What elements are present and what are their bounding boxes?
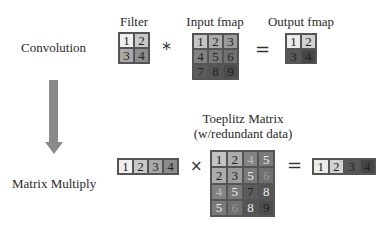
input-fmap-cell: 9 (223, 64, 238, 79)
toeplitz-cell: 1 (211, 151, 227, 167)
toeplitz-cell: 4 (243, 151, 259, 167)
toeplitz-cell: 6 (258, 167, 274, 183)
result-vector-cell: 1 (313, 159, 329, 174)
filter-matrix: 1234 (118, 32, 150, 64)
output-fmap-cell: 3 (286, 49, 301, 64)
input-fmap-cell: 7 (193, 64, 208, 79)
toeplitz-cell: 4 (211, 184, 227, 200)
toeplitz-cell: 5 (227, 184, 243, 200)
result-vector: 1234 (312, 158, 376, 175)
matrix-multiply-label: Matrix Multiply (12, 176, 96, 192)
equals-operator-top: = (255, 38, 270, 59)
convolution-label: Convolution (21, 40, 86, 56)
toeplitz-cell: 3 (227, 167, 243, 183)
filter-cell: 3 (119, 48, 134, 63)
toeplitz-matrix: 1245235645785689 (210, 150, 275, 217)
toeplitz-cell: 7 (243, 184, 259, 200)
filter-vector: 1234 (117, 158, 179, 175)
output-fmap-cell: 1 (286, 34, 301, 49)
input-fmap-cell: 2 (208, 34, 223, 49)
input-fmap-cell: 5 (208, 49, 223, 64)
toeplitz-cell: 5 (243, 167, 259, 183)
filter-cell: 1 (119, 33, 134, 48)
filter-vector-cell: 3 (148, 159, 163, 174)
result-vector-cell: 2 (329, 159, 345, 174)
toeplitz-cell: 5 (258, 151, 274, 167)
output-fmap-cell: 2 (301, 34, 316, 49)
convolution-operator: * (162, 38, 171, 59)
filter-cell: 2 (134, 33, 149, 48)
input-fmap-matrix: 123456789 (192, 33, 239, 80)
toeplitz-cell: 8 (243, 200, 259, 216)
equals-operator-bottom: = (287, 154, 302, 175)
multiply-operator: × (190, 157, 203, 175)
toeplitz-cell: 2 (227, 151, 243, 167)
toeplitz-title-line1: Toeplitz Matrix (188, 111, 298, 127)
input-fmap-title: Input fmap (181, 14, 249, 30)
input-fmap-cell: 6 (223, 49, 238, 64)
input-fmap-cell: 8 (208, 64, 223, 79)
filter-vector-cell: 2 (133, 159, 148, 174)
filter-title: Filter (118, 14, 150, 30)
output-fmap-cell: 4 (301, 49, 316, 64)
filter-vector-cell: 1 (118, 159, 133, 174)
result-vector-cell: 4 (360, 159, 376, 174)
output-fmap-title: Output fmap (264, 14, 338, 30)
input-fmap-cell: 4 (193, 49, 208, 64)
input-fmap-cell: 1 (193, 34, 208, 49)
output-fmap-matrix: 1234 (285, 33, 317, 64)
filter-cell: 4 (134, 48, 149, 63)
toeplitz-cell: 2 (211, 167, 227, 183)
input-fmap-cell: 3 (223, 34, 238, 49)
toeplitz-title-line2: (w/redundant data) (188, 126, 298, 142)
filter-vector-cell: 4 (163, 159, 178, 174)
toeplitz-cell: 8 (258, 184, 274, 200)
toeplitz-cell: 5 (211, 200, 227, 216)
toeplitz-cell: 9 (258, 200, 274, 216)
result-vector-cell: 3 (344, 159, 360, 174)
toeplitz-cell: 6 (227, 200, 243, 216)
